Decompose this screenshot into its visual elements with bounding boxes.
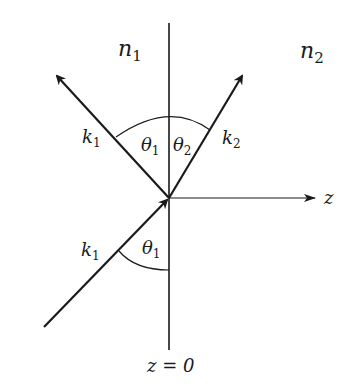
transmitted-ray-label: k2 [222, 127, 241, 151]
incident-ray-label: k1 [81, 239, 100, 263]
interface-label: z = 0 [146, 355, 194, 376]
reflected-angle-label: θ1 [141, 134, 159, 158]
refraction-diagram: n1 n2 k1 θ1 θ2 k2 z k1 θ1 z = 0 [0, 0, 359, 390]
medium-label-n1: n1 [118, 36, 142, 65]
medium-label-n2: n2 [300, 38, 324, 67]
incident-ray-k1 [44, 200, 167, 327]
transmitted-angle-label: θ2 [173, 134, 191, 158]
incident-angle-label: θ1 [142, 237, 160, 261]
diagram-svg: n1 n2 k1 θ1 θ2 k2 z k1 θ1 z = 0 [0, 0, 359, 390]
upper-angle-arc [116, 117, 210, 137]
z-axis-label: z [323, 187, 334, 208]
reflected-ray-k1 [57, 76, 169, 198]
reflected-ray-label: k1 [82, 126, 101, 150]
